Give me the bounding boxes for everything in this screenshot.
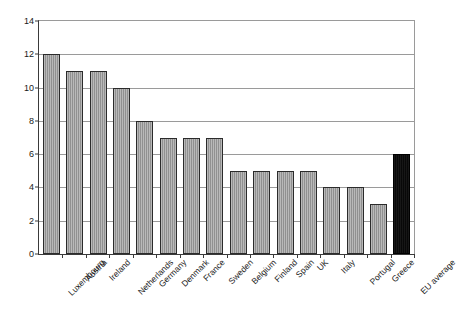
- x-axis-label: Sweden: [227, 258, 255, 286]
- x-axis-label: EU average: [419, 258, 457, 296]
- bar[interactable]: [393, 154, 410, 254]
- bar-slot: [40, 21, 63, 254]
- bar[interactable]: [253, 171, 270, 254]
- bar[interactable]: [300, 171, 317, 254]
- y-axis-tick-label: 6: [29, 150, 34, 159]
- y-axis-tick-label: 14: [24, 17, 34, 26]
- plot-area: 02468101214: [38, 20, 415, 255]
- x-axis-label: Spain: [295, 258, 316, 279]
- y-axis-tick-mark: [35, 154, 39, 155]
- bar[interactable]: [160, 138, 177, 255]
- bar[interactable]: [113, 88, 130, 254]
- bar[interactable]: [347, 187, 364, 254]
- bar-slot: [321, 21, 344, 254]
- bar-slot: [180, 21, 203, 254]
- bar-slot: [227, 21, 250, 254]
- bar[interactable]: [277, 171, 294, 254]
- y-axis-tick-label: 0: [29, 250, 34, 259]
- y-axis-tick-label: 10: [24, 83, 34, 92]
- bar[interactable]: [206, 138, 223, 255]
- bars-group: [40, 21, 414, 254]
- bar[interactable]: [66, 71, 83, 254]
- y-axis-tick-label: 2: [29, 216, 34, 225]
- y-axis-tick-label: 12: [24, 50, 34, 59]
- bar[interactable]: [323, 187, 340, 254]
- y-axis-tick-mark: [35, 187, 39, 188]
- y-axis-tick-mark: [35, 87, 39, 88]
- bar[interactable]: [183, 138, 200, 255]
- y-axis-tick-mark: [35, 220, 39, 221]
- bar-slot: [87, 21, 110, 254]
- y-axis-tick-mark: [35, 54, 39, 55]
- bar[interactable]: [43, 54, 60, 254]
- bar-slot: [344, 21, 367, 254]
- bar[interactable]: [136, 121, 153, 254]
- bar-slot: [204, 21, 227, 254]
- bar-slot: [391, 21, 414, 254]
- x-axis-label: Italy: [340, 258, 357, 275]
- y-axis-tick-label: 4: [29, 183, 34, 192]
- x-axis-label: Austria: [84, 258, 109, 283]
- bar-slot: [134, 21, 157, 254]
- bar-slot: [110, 21, 133, 254]
- bar-slot: [63, 21, 86, 254]
- bar[interactable]: [90, 71, 107, 254]
- y-axis-tick-mark: [35, 254, 39, 255]
- y-axis-tick-mark: [35, 120, 39, 121]
- x-axis-label: UK: [315, 258, 329, 272]
- bar-slot: [157, 21, 180, 254]
- x-axis-labels: LuxembourgAustriaIrelandNetherlandsGerma…: [38, 258, 415, 320]
- y-axis-tick-mark: [35, 21, 39, 22]
- bar-slot: [297, 21, 320, 254]
- bar[interactable]: [370, 204, 387, 254]
- x-axis-label: Ireland: [107, 258, 131, 282]
- bar-slot: [250, 21, 273, 254]
- bar[interactable]: [230, 171, 247, 254]
- y-axis-tick-label: 8: [29, 116, 34, 125]
- bar-slot: [367, 21, 390, 254]
- bar-slot: [274, 21, 297, 254]
